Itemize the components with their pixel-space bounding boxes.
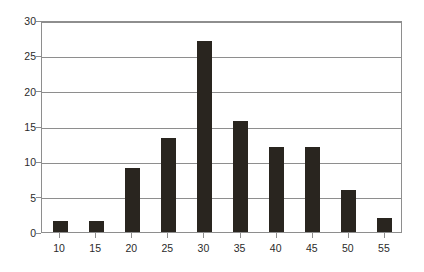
bar — [305, 147, 320, 232]
x-axis-label: 15 — [75, 243, 115, 254]
y-axis-tick — [36, 91, 41, 92]
x-axis-label: 25 — [147, 243, 187, 254]
y-axis-label: 25 — [2, 51, 36, 62]
bars-layer — [42, 22, 401, 232]
x-axis-tick — [276, 233, 277, 238]
x-axis-tick — [348, 233, 349, 238]
bar-chart: 05101520253010152025303540455055 — [0, 0, 424, 272]
x-axis-label: 45 — [292, 243, 332, 254]
x-axis-label: 35 — [220, 243, 260, 254]
y-axis-label: 20 — [2, 86, 36, 97]
y-axis-tick — [36, 162, 41, 163]
bar — [125, 168, 140, 232]
y-axis-tick — [36, 21, 41, 22]
x-axis-tick — [384, 233, 385, 238]
y-axis-label: 10 — [2, 157, 36, 168]
x-axis-label: 40 — [256, 243, 296, 254]
x-axis-tick — [167, 233, 168, 238]
bar — [341, 190, 356, 232]
bar — [161, 138, 176, 232]
bar — [269, 147, 284, 232]
bar — [233, 121, 248, 232]
bar — [89, 221, 104, 232]
x-axis-tick — [240, 233, 241, 238]
x-axis-label: 50 — [328, 243, 368, 254]
bar — [377, 218, 392, 232]
plot-area — [41, 21, 402, 233]
y-axis-tick — [36, 127, 41, 128]
y-axis-label: 5 — [2, 192, 36, 203]
x-axis-tick — [131, 233, 132, 238]
x-axis-tick — [312, 233, 313, 238]
x-axis-label: 20 — [111, 243, 151, 254]
x-axis-label: 30 — [183, 243, 223, 254]
bar — [197, 41, 212, 232]
y-axis-tick — [36, 233, 41, 234]
x-axis-tick — [59, 233, 60, 238]
y-axis-tick — [36, 197, 41, 198]
x-axis-label: 10 — [39, 243, 79, 254]
x-axis-tick — [95, 233, 96, 238]
x-axis-tick — [203, 233, 204, 238]
bar — [53, 221, 68, 232]
x-axis-label: 55 — [364, 243, 404, 254]
y-axis-label: 30 — [2, 16, 36, 27]
y-axis-label: 0 — [2, 228, 36, 239]
y-axis-label: 15 — [2, 122, 36, 133]
y-axis-tick — [36, 56, 41, 57]
